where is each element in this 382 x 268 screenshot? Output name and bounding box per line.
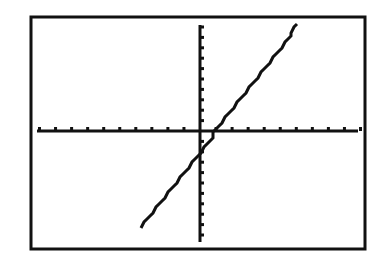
y-tick	[200, 88, 204, 91]
y-tick	[200, 192, 204, 195]
x-tick	[263, 127, 266, 131]
x-tick	[70, 127, 73, 131]
y-tick	[200, 67, 204, 70]
plotted-line-y1	[141, 24, 297, 228]
x-tick	[118, 127, 121, 131]
y-tick	[200, 234, 204, 237]
x-tick	[38, 127, 41, 131]
y-tick	[200, 36, 204, 39]
y-tick	[200, 78, 204, 81]
x-tick	[150, 127, 153, 131]
y-tick	[200, 213, 204, 216]
y-tick	[200, 223, 204, 226]
x-tick	[86, 127, 89, 131]
line-y1-path	[141, 24, 297, 228]
y-tick	[200, 46, 204, 49]
y-tick	[200, 171, 204, 174]
y-tick	[200, 140, 204, 143]
y-tick	[200, 26, 204, 29]
y-tick	[200, 161, 204, 164]
x-tick	[182, 127, 185, 131]
x-tick	[295, 127, 298, 131]
x-tick	[166, 127, 169, 131]
x-tick	[54, 127, 57, 131]
x-tick	[327, 127, 330, 131]
calculator-graph-screen	[0, 0, 382, 268]
x-tick	[247, 127, 250, 131]
x-tick	[102, 127, 105, 131]
x-tick	[359, 127, 362, 131]
y-tick	[200, 202, 204, 205]
x-tick	[231, 127, 234, 131]
x-tick	[134, 127, 137, 131]
screen-frame	[31, 17, 365, 249]
x-tick	[311, 127, 314, 131]
y-tick	[200, 109, 204, 112]
y-tick	[200, 57, 204, 60]
x-tick	[343, 127, 346, 131]
y-tick	[200, 98, 204, 101]
y-tick	[200, 182, 204, 185]
axes	[37, 25, 358, 242]
x-tick	[279, 127, 282, 131]
y-tick	[200, 119, 204, 122]
